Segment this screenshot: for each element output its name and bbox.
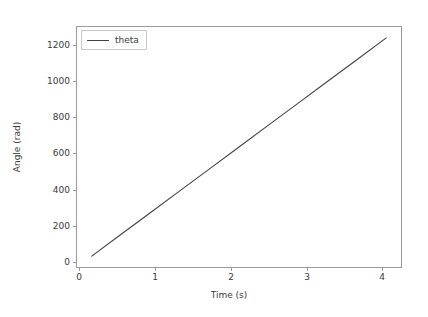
matplotlib-figure: 0 200 400 600 800 1000 1200 0 1 2 3 4 Ti… — [0, 0, 428, 317]
x-tick-label: 4 — [379, 272, 385, 283]
y-tick-label: 1000 — [47, 76, 70, 87]
legend-line-swatch-theta — [87, 40, 109, 41]
x-tick-mark — [382, 268, 383, 271]
y-tick-label: 400 — [53, 185, 70, 196]
x-tick-label: 0 — [76, 272, 82, 283]
x-tick-label: 3 — [304, 272, 310, 283]
x-tick-mark — [307, 268, 308, 271]
x-tick-mark — [79, 268, 80, 271]
x-tick-label: 2 — [228, 272, 234, 283]
legend-label-theta: theta — [115, 35, 139, 45]
y-tick-label: 800 — [53, 112, 70, 123]
y-tick-label: 600 — [53, 148, 70, 159]
y-tick-label: 200 — [53, 221, 70, 232]
x-tick-label: 1 — [152, 272, 158, 283]
y-axis-label: Angle (rad) — [12, 122, 22, 172]
series-line-theta — [92, 38, 387, 256]
y-tick-label: 1200 — [47, 40, 70, 51]
legend: theta — [81, 30, 147, 50]
plot-area: theta — [76, 26, 402, 268]
x-axis-label-text: Time (s) — [211, 290, 248, 300]
x-tick-mark — [155, 268, 156, 271]
x-tick-mark — [231, 268, 232, 271]
x-axis-label: Time (s) — [0, 290, 428, 300]
y-tick-label: 0 — [64, 257, 70, 268]
data-line-svg — [77, 27, 401, 267]
